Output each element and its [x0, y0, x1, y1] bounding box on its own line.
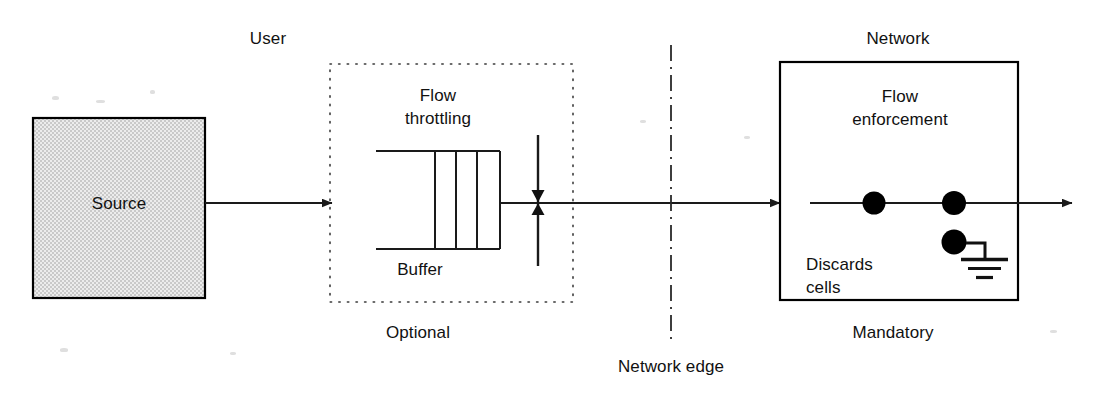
network-edge-label: Network edge: [618, 355, 724, 378]
valve-icon: [532, 135, 545, 266]
flow-enforcement-label-line1: Flow: [882, 85, 918, 108]
buffer-queue: [376, 151, 500, 249]
flow-throttling-label-line2: throttling: [405, 107, 471, 130]
ground-icon: [961, 260, 1008, 278]
buffer-label: Buffer: [397, 258, 443, 281]
flow-throttling-label-line1: Flow: [420, 84, 456, 107]
flow-enforcement-label-line2: enforcement: [852, 108, 948, 131]
ground-lead: [966, 243, 985, 259]
source-label: Source: [92, 192, 146, 215]
discards-label-line2: cells: [806, 276, 841, 299]
cell-icon-1: [863, 192, 886, 215]
user-region-header: User: [250, 27, 286, 50]
valve-upper-triangle: [532, 190, 545, 202]
cell-icon-discarded: [942, 230, 967, 255]
valve-lower-triangle: [532, 203, 545, 215]
optional-label: Optional: [386, 321, 450, 344]
network-region-header: Network: [866, 27, 929, 50]
cell-icon-2: [942, 191, 966, 215]
discarded-cell-group: [942, 230, 1009, 278]
mandatory-label: Mandatory: [852, 321, 933, 344]
diagram-canvas: [0, 0, 1109, 393]
discards-label-line1: Discards: [806, 253, 873, 276]
flow-control-diagram: User Network Source Flow throttling Buff…: [0, 0, 1109, 393]
